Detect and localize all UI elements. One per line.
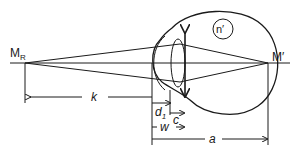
w-label: w	[160, 121, 169, 133]
a-label: a	[209, 133, 216, 145]
eye-optics-diagram	[0, 0, 296, 156]
retina-point-label: M′	[272, 51, 284, 63]
refractive-index-label: n′	[216, 23, 224, 35]
ray-upper-refracted	[180, 44, 268, 63]
k-label: k	[91, 91, 97, 103]
ray-lower-refracted	[180, 63, 268, 82]
c-label: c	[173, 114, 179, 126]
far-point-label: MR	[10, 47, 26, 64]
